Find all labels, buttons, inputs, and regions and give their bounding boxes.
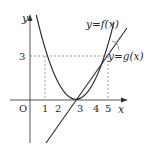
x-tick-5: 5 bbox=[105, 103, 111, 114]
curve-f-label: y=f(x) bbox=[85, 18, 119, 30]
x-axis-arrow-icon bbox=[121, 98, 128, 103]
x-tick-2: 2 bbox=[55, 103, 61, 114]
x-axis-label: x bbox=[118, 103, 125, 116]
y-axis-arrow-icon bbox=[28, 14, 33, 21]
y-axis-label: y bbox=[21, 12, 29, 25]
x-tick-3: 3 bbox=[77, 103, 83, 114]
line-g-label: y=g(x) bbox=[107, 50, 144, 62]
origin-label: O bbox=[19, 103, 27, 114]
x-axis bbox=[10, 98, 128, 103]
y-axis bbox=[28, 14, 33, 143]
y-tick-3: 3 bbox=[19, 51, 25, 62]
graph: y x O 3 1 2 3 4 5 y=f(x) y=g(x) bbox=[0, 0, 152, 150]
line-g bbox=[46, 28, 127, 143]
x-tick-1: 1 bbox=[42, 103, 48, 114]
x-tick-4: 4 bbox=[93, 103, 99, 114]
